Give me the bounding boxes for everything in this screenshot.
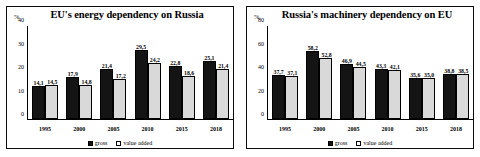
bar-value-label: 46,9 <box>342 58 352 64</box>
chart-legend: gross value added <box>240 140 480 146</box>
bar-slot: 46,9 <box>340 26 353 119</box>
bar-value-added[interactable]: 35,0 <box>422 78 435 119</box>
bar-group: 58,252,8 <box>302 26 336 119</box>
bar-value-label: 18,6 <box>184 70 194 76</box>
bar-slot: 18,6 <box>182 26 195 119</box>
chart-legend: gross value added <box>0 140 240 146</box>
x-axis-line <box>27 119 233 120</box>
bar-value-label: 44,5 <box>356 61 366 67</box>
bar-group: 21,417,2 <box>96 26 130 119</box>
bar-value-added[interactable]: 18,6 <box>182 76 195 119</box>
bar-gross[interactable]: 22,8 <box>169 66 182 119</box>
legend-label-gross: gross <box>95 140 108 146</box>
bar-gross[interactable]: 38,8 <box>443 74 456 119</box>
x-axis-label: 2018 <box>439 126 473 132</box>
bar-slot: 24,2 <box>148 26 161 119</box>
bar-group: 46,944,5 <box>336 26 370 119</box>
bar-value-added[interactable]: 44,5 <box>353 67 366 119</box>
bar-gross[interactable]: 37,7 <box>272 75 285 119</box>
bar-value-label: 38,5 <box>458 68 468 74</box>
bar-gross[interactable]: 29,5 <box>135 50 148 119</box>
bar-gross[interactable]: 35,6 <box>409 78 422 119</box>
bar-group: 29,524,2 <box>131 26 165 119</box>
plot-area: 020406080 37,737,158,252,846,944,543,342… <box>267 26 473 120</box>
x-axis-line <box>267 119 473 120</box>
bar-slot: 42,1 <box>388 26 401 119</box>
bar-value-label: 38,8 <box>444 68 454 74</box>
bar-value-label: 52,8 <box>321 52 331 58</box>
y-axis-tick-label: 10 <box>18 88 24 94</box>
y-axis-tick-label: 20 <box>18 64 24 70</box>
bar-group: 37,737,1 <box>268 26 302 119</box>
bar-group: 14,114,5 <box>28 26 62 119</box>
bar-value-label: 43,3 <box>376 63 386 69</box>
bar-value-added[interactable]: 14,5 <box>45 85 58 119</box>
plot-area: 010203040 14,114,517,914,821,417,229,524… <box>27 26 233 120</box>
bar-group: 17,914,8 <box>62 26 96 119</box>
bar-value-label: 58,2 <box>308 45 318 51</box>
x-axis-label: 2015 <box>165 126 199 132</box>
legend-swatch-gross-icon <box>88 141 93 146</box>
bar-slot: 37,1 <box>285 26 298 119</box>
bar-value-label: 35,0 <box>424 72 434 78</box>
bar-value-label: 42,1 <box>390 64 400 70</box>
bar-gross[interactable]: 58,2 <box>306 51 319 119</box>
chart-panel-eu-energy: % EU's energy dependency on Russia 01020… <box>0 0 240 157</box>
y-axis-tick-label: 30 <box>18 41 24 47</box>
legend-label-value-added: value added <box>363 140 392 146</box>
x-axis-label: 2010 <box>371 126 405 132</box>
bar-value-added[interactable]: 14,8 <box>79 85 92 119</box>
bar-slot: 35,6 <box>409 26 422 119</box>
bar-gross[interactable]: 14,1 <box>32 86 45 119</box>
y-axis-tick-label: 0 <box>21 111 24 117</box>
x-axis-labels: 199520002005201020152018 <box>28 126 233 132</box>
bar-slot: 52,8 <box>319 26 332 119</box>
legend-item-gross: gross <box>328 140 348 146</box>
bar-value-added[interactable]: 24,2 <box>148 63 161 119</box>
bar-value-label: 25,1 <box>204 55 214 61</box>
legend-swatch-value-added-icon <box>116 141 121 146</box>
bar-slot: 14,5 <box>45 26 58 119</box>
x-axis-label: 1995 <box>268 126 302 132</box>
bar-gross[interactable]: 17,9 <box>66 77 79 119</box>
bar-value-label: 17,2 <box>116 73 126 79</box>
bar-value-label: 29,5 <box>136 44 146 50</box>
chart-title: Russia's machinery dependency on EU <box>260 9 474 20</box>
bar-gross[interactable]: 25,1 <box>203 61 216 119</box>
legend-item-gross: gross <box>88 140 108 146</box>
bar-value-added[interactable]: 42,1 <box>388 70 401 119</box>
bar-value-label: 37,1 <box>287 70 297 76</box>
bar-value-added[interactable]: 37,1 <box>285 76 298 119</box>
legend-label-value-added: value added <box>123 140 152 146</box>
bar-gross[interactable]: 43,3 <box>375 69 388 119</box>
bar-group: 38,838,5 <box>439 26 473 119</box>
bar-value-label: 35,6 <box>410 72 420 78</box>
bar-gross[interactable]: 21,4 <box>100 69 113 119</box>
y-axis-tick-label: 60 <box>258 41 264 47</box>
x-axis-label: 2000 <box>62 126 96 132</box>
y-axis-tick-label: 0 <box>261 111 264 117</box>
bar-slot: 35,0 <box>422 26 435 119</box>
bar-slot: 22,8 <box>169 26 182 119</box>
x-axis-label: 2005 <box>96 126 130 132</box>
bar-value-added[interactable]: 38,5 <box>456 74 469 119</box>
bar-slot: 38,8 <box>443 26 456 119</box>
dual-chart-figure: % EU's energy dependency on Russia 01020… <box>0 0 480 157</box>
bar-value-added[interactable]: 17,2 <box>113 79 126 119</box>
bar-gross[interactable]: 46,9 <box>340 64 353 119</box>
bar-groups: 14,114,517,914,821,417,229,524,222,818,6… <box>28 26 233 119</box>
bar-value-label: 37,7 <box>274 69 284 75</box>
bar-value-added[interactable]: 21,4 <box>216 69 229 119</box>
bar-slot: 29,5 <box>135 26 148 119</box>
x-axis-label: 2000 <box>302 126 336 132</box>
x-axis-label: 2010 <box>131 126 165 132</box>
bar-value-label: 17,9 <box>68 71 78 77</box>
bar-value-added[interactable]: 52,8 <box>319 58 332 119</box>
bar-value-label: 22,8 <box>170 60 180 66</box>
y-axis-tick-label: 40 <box>258 64 264 70</box>
bar-slot: 37,7 <box>272 26 285 119</box>
legend-swatch-value-added-icon <box>356 141 361 146</box>
bar-group: 25,121,4 <box>199 26 233 119</box>
bar-slot: 17,2 <box>113 26 126 119</box>
legend-item-value-added: value added <box>116 140 152 146</box>
